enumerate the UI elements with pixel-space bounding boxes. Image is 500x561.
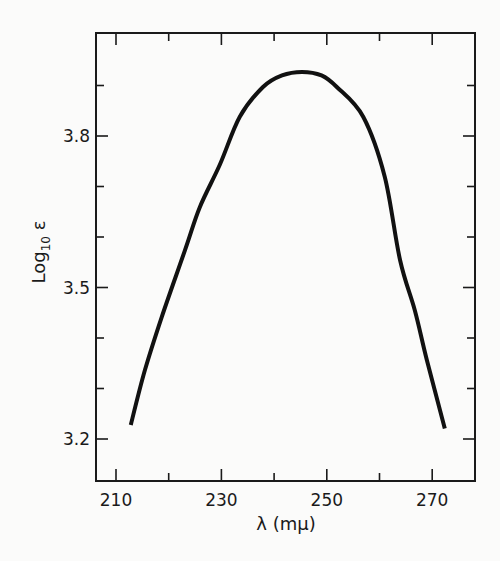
x-tick-label: 210: [100, 490, 132, 510]
x-tick-label: 230: [205, 490, 237, 510]
data-curve: [131, 72, 445, 429]
y-axis-label-main: Log: [28, 251, 49, 283]
y-tick-label: 3.5: [63, 278, 90, 298]
y-axis-label-tail: ε: [28, 221, 49, 236]
y-tick-label: 3.8: [63, 126, 90, 146]
x-axis-label: λ (mμ): [256, 513, 315, 534]
y-axis-label-sub: 10: [39, 236, 53, 251]
plot-frame: [96, 33, 475, 481]
axes-box: [96, 33, 475, 481]
x-tick-labels: 210230250270: [100, 490, 449, 510]
x-tick-label: 270: [416, 490, 448, 510]
chart: 210230250270 3.23.53.8 λ (mμ) Log10 ε: [0, 0, 500, 561]
axis-ticks: [96, 33, 475, 481]
y-axis-label: Log10 ε: [28, 221, 53, 284]
x-tick-label: 250: [311, 490, 343, 510]
y-tick-label: 3.2: [63, 429, 90, 449]
y-tick-labels: 3.23.53.8: [63, 126, 90, 449]
